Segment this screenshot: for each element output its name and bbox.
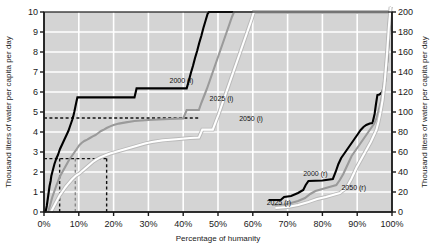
- left-axis-tick-label: 0: [33, 207, 38, 217]
- series-label-2025 (r): 2025 (r): [267, 199, 292, 207]
- right-axis-tick-label: 180: [398, 27, 413, 37]
- x-axis-tick-label: 70%: [279, 219, 297, 229]
- water-distribution-chart: 2000 (l)2025 (l)2050 (l)2000 (r)2025 (r)…: [0, 0, 436, 251]
- right-axis-tick-label: 80: [398, 127, 408, 137]
- left-axis-tick-label: 5: [33, 107, 38, 117]
- x-axis-title: Percentage of humanity: [176, 234, 261, 243]
- series-label-2025 (l): 2025 (l): [210, 95, 234, 103]
- left-axis-tick-label: 9: [33, 27, 38, 37]
- right-axis-tick-label: 140: [398, 67, 413, 77]
- right-axis-tick-label: 0: [398, 207, 403, 217]
- left-axis-tick-label: 8: [33, 47, 38, 57]
- series-label-2000 (l): 2000 (l): [170, 77, 194, 85]
- left-axis-tick-label: 2: [33, 167, 38, 177]
- x-axis-tick-label: 60%: [244, 219, 262, 229]
- right-axis-tick-label: 160: [398, 47, 413, 57]
- left-axis-tick-label: 1: [33, 187, 38, 197]
- left-axis-tick-label: 10: [28, 7, 38, 17]
- right-axis-tick-label: 200: [398, 7, 413, 17]
- right-axis-tick-label: 100: [398, 107, 413, 117]
- x-axis-tick-label: 100%: [380, 219, 403, 229]
- left-axis-tick-label: 6: [33, 87, 38, 97]
- left-axis-tick-label: 3: [33, 147, 38, 157]
- x-axis-tick-label: 40%: [174, 219, 192, 229]
- x-axis-tick-label: 10%: [70, 219, 88, 229]
- x-axis-tick-label: 80%: [313, 219, 331, 229]
- series-label-2050 (l): 2050 (l): [239, 115, 263, 123]
- right-axis-title: Thousand liters of water per capita per …: [420, 36, 429, 188]
- series-label-2000 (r): 2000 (r): [303, 170, 328, 178]
- right-axis-tick-label: 60: [398, 147, 408, 157]
- chart-canvas: 2000 (l)2025 (l)2050 (l)2000 (r)2025 (r)…: [0, 0, 436, 251]
- x-axis-tick-label: 0%: [37, 219, 50, 229]
- left-axis-title: Thousand liters of water per capita per …: [4, 36, 13, 188]
- series-label-2050 (r): 2050 (r): [341, 184, 366, 192]
- left-axis-tick-label: 7: [33, 67, 38, 77]
- right-axis-tick-label: 120: [398, 87, 413, 97]
- x-axis-tick-label: 30%: [139, 219, 157, 229]
- x-axis-tick-label: 50%: [209, 219, 227, 229]
- right-axis-tick-label: 20: [398, 187, 408, 197]
- x-axis-tick-label: 20%: [105, 219, 123, 229]
- x-axis-tick-label: 90%: [348, 219, 366, 229]
- right-axis-tick-label: 40: [398, 167, 408, 177]
- left-axis-tick-label: 4: [33, 127, 38, 137]
